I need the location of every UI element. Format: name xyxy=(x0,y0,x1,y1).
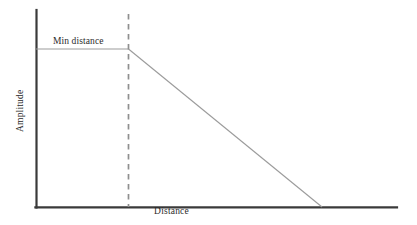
amplitude-distance-chart: Min distance Distance Amplitude xyxy=(0,0,417,225)
x-axis-label-text: Distance xyxy=(154,206,189,216)
x-axis-label: Distance xyxy=(0,206,417,216)
y-axis-label: Amplitude xyxy=(15,92,25,132)
decay-segment xyxy=(129,49,323,207)
chart-canvas xyxy=(0,0,417,225)
min-distance-annotation: Min distance xyxy=(51,36,106,46)
